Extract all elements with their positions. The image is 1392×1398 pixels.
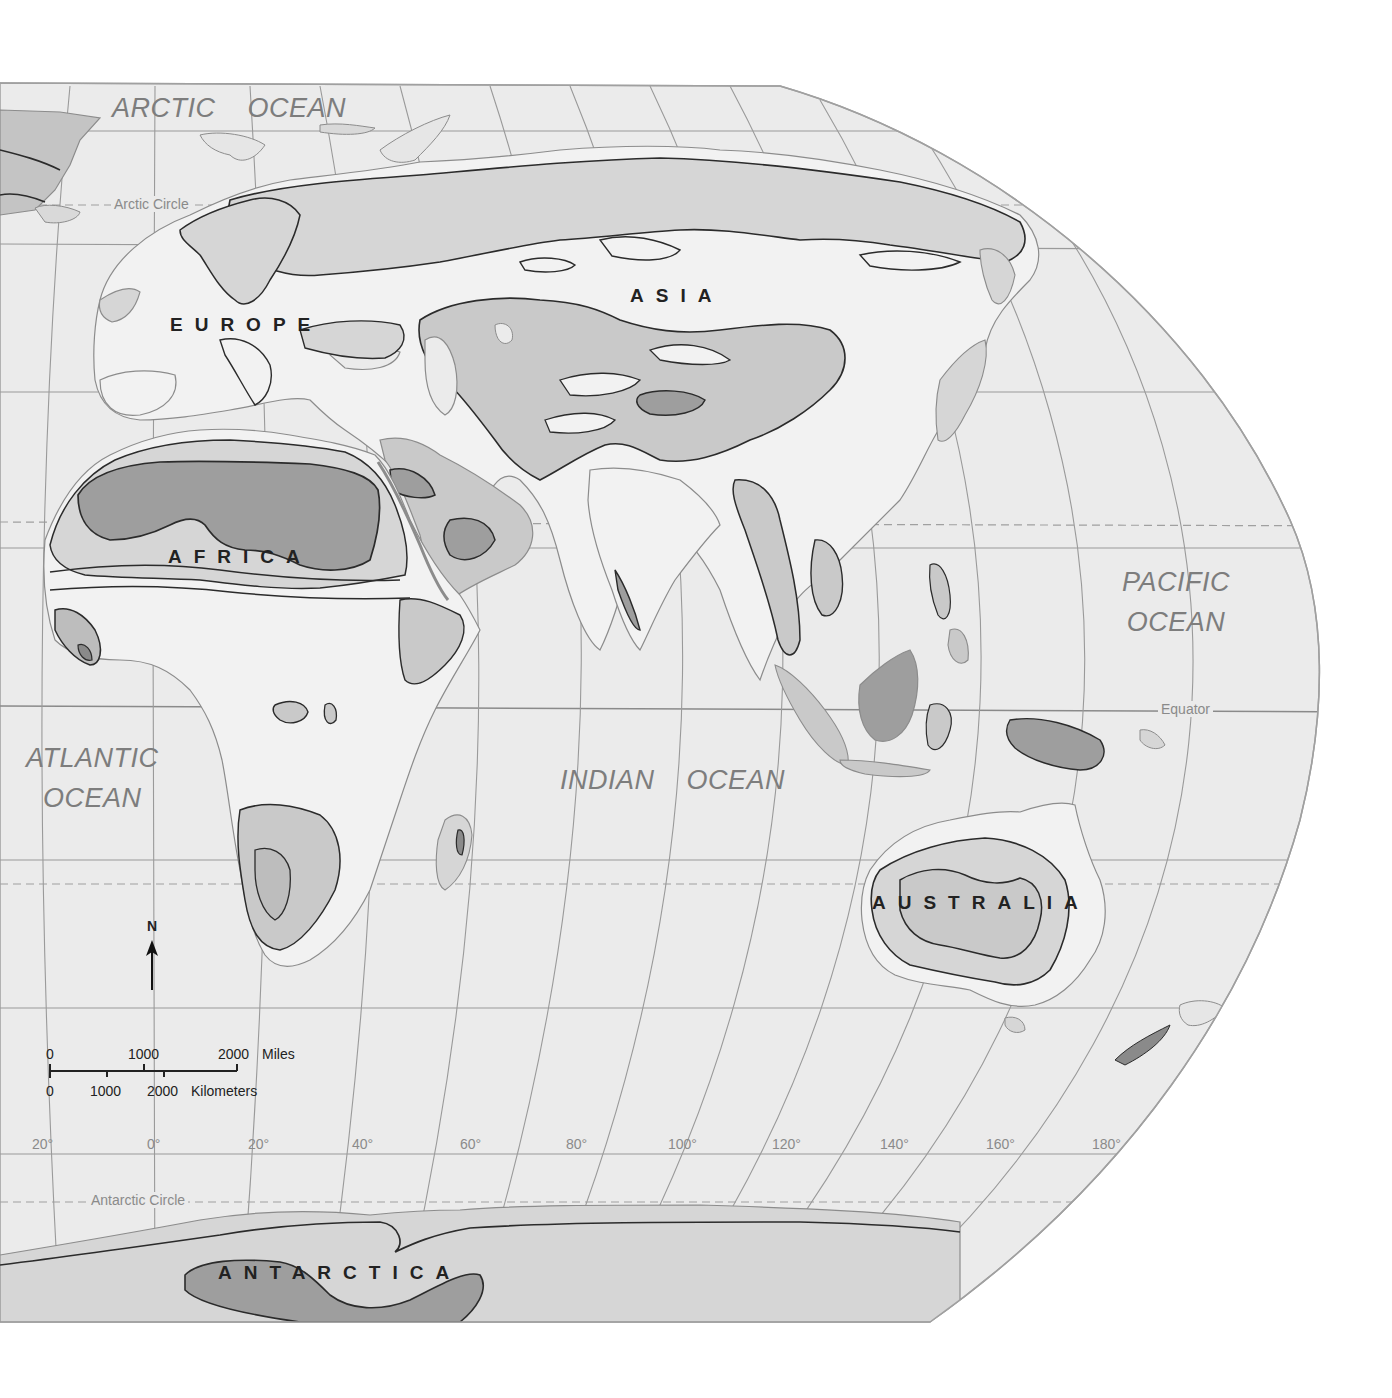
longitude-label-40e: 40° — [352, 1136, 373, 1152]
scale-miles-1000: 1000 — [128, 1046, 159, 1062]
north-arrow-label: N — [147, 918, 157, 934]
scale-km-unit: Kilometers — [191, 1083, 257, 1099]
scale-km-2000: 2000 — [147, 1083, 178, 1099]
longitude-label-140e: 140° — [880, 1136, 909, 1152]
label-pacific-ocean: PACIFIC OCEAN — [1122, 562, 1230, 642]
label-australia: AUSTRALIA — [872, 892, 1090, 914]
scale-km-1000: 1000 — [90, 1083, 121, 1099]
longitude-label-160e: 160° — [986, 1136, 1015, 1152]
label-arctic-ocean: ARCTIC OCEAN — [112, 88, 346, 128]
longitude-label-20e: 20° — [248, 1136, 269, 1152]
label-antarctica: ANTARCTICA — [218, 1262, 461, 1284]
label-atlantic-ocean: ATLANTIC OCEAN — [26, 738, 159, 818]
map-canvas — [0, 0, 1392, 1398]
longitude-label-100e: 100° — [668, 1136, 697, 1152]
longitude-label-60e: 60° — [460, 1136, 481, 1152]
scale-miles-unit: Miles — [262, 1046, 295, 1062]
scale-miles-2000: 2000 — [218, 1046, 249, 1062]
label-asia: ASIA — [630, 285, 723, 307]
label-arctic-circle: Arctic Circle — [111, 196, 192, 212]
label-pacific-line1: PACIFIC — [1122, 562, 1230, 602]
label-antarctic-circle: Antarctic Circle — [88, 1192, 188, 1208]
longitude-label-20w: 20° — [32, 1136, 53, 1152]
scale-km-0: 0 — [46, 1083, 54, 1099]
label-indian-ocean: INDIAN OCEAN — [560, 760, 785, 800]
longitude-label-180: 180° — [1092, 1136, 1121, 1152]
longitude-label-80e: 80° — [566, 1136, 587, 1152]
label-africa: AFRICA — [168, 546, 312, 568]
longitude-label-120e: 120° — [772, 1136, 801, 1152]
longitude-label-0: 0° — [147, 1136, 160, 1152]
world-map: ARCTIC OCEAN ATLANTIC OCEAN INDIAN OCEAN… — [0, 0, 1392, 1398]
label-europe: EUROPE — [170, 314, 322, 336]
scale-miles-0: 0 — [46, 1046, 54, 1062]
label-equator: Equator — [1158, 701, 1213, 717]
label-pacific-line2: OCEAN — [1122, 602, 1230, 642]
label-atlantic-line2: OCEAN — [26, 778, 159, 818]
label-atlantic-line1: ATLANTIC — [26, 738, 159, 778]
